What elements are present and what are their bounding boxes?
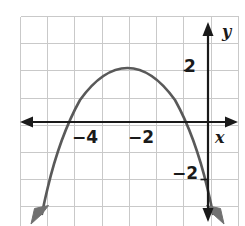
y-axis-label: y	[222, 24, 231, 40]
x-tick-label-neg2: −2	[128, 129, 154, 146]
graph-figure: −4 −2 2 −2 x y	[0, 0, 245, 226]
coordinate-plane-svg	[0, 0, 245, 226]
x-axis-label: x	[215, 130, 225, 146]
parabola-arrowhead-left	[31, 206, 49, 225]
y-tick-label-2: 2	[184, 58, 196, 75]
y-tick-label-neg2: −2	[172, 165, 198, 182]
x-tick-label-neg4: −4	[72, 129, 98, 146]
